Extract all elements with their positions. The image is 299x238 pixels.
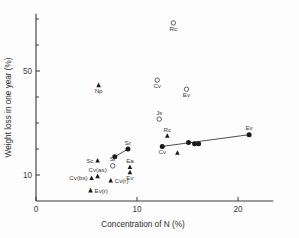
data-point-triangle (128, 164, 133, 169)
y-tick-label: 10 (23, 171, 33, 180)
point-label-Sr: Sr (125, 139, 131, 146)
point-label-Sr: Sr (110, 155, 116, 162)
point-label-Cv(r): Cv(r) (115, 177, 129, 184)
point-label-Cv(as): Cv(as) (89, 166, 107, 173)
point-label-Rc: Rc (164, 126, 172, 133)
data-point-triangle (89, 175, 94, 180)
data-point-open-circle (111, 164, 115, 168)
point-label-Ev(r): Ev(r) (95, 187, 108, 194)
data-point-filled-circle (247, 132, 252, 137)
x-tick-label: 10 (132, 205, 142, 214)
data-markers-group (88, 21, 251, 193)
data-point-triangle (88, 188, 93, 193)
point-label-Js: Js (156, 109, 162, 116)
data-point-triangle (95, 158, 100, 163)
data-point-triangle (108, 178, 113, 183)
axis-text-group: 010201050Concentration of N (%)Weight lo… (4, 57, 243, 229)
point-label-Cv(bs): Cv(bs) (69, 174, 87, 181)
x-tick-label: 20 (233, 205, 243, 214)
point-label-Ev: Ev (245, 124, 253, 131)
fit-lines-group (115, 135, 249, 157)
point-labels-group: RcCvEvJsSrNpRcScEaEvCv(as)Cv(bs)Cv(r)Ev(… (69, 25, 253, 194)
data-point-triangle (165, 133, 170, 138)
scatter-plot-figure: RcCvEvJsSrNpRcScEaEvCv(as)Cv(bs)Cv(r)Ev(… (0, 0, 299, 238)
data-point-triangle (175, 150, 180, 155)
point-label-Np: Np (95, 87, 103, 94)
point-label-Ev: Ev (183, 91, 191, 98)
x-tick-label: 0 (34, 205, 39, 214)
x-axis-title: Concentration of N (%) (101, 220, 185, 229)
data-point-filled-circle (186, 140, 191, 145)
axes-group (36, 14, 273, 201)
plot-canvas: RcCvEvJsSrNpRcScEaEvCv(as)Cv(bs)Cv(r)Ev(… (0, 0, 299, 238)
point-label-Cv: Cv (158, 148, 166, 155)
data-point-open-circle (157, 117, 161, 121)
data-point-filled-circle (196, 141, 201, 146)
point-label-Rc: Rc (170, 25, 178, 32)
y-tick-label: 50 (23, 67, 33, 76)
data-point-triangle (95, 174, 100, 179)
y-axis-title: Weight loss in one year (%) (4, 57, 13, 157)
data-point-filled-circle (125, 147, 130, 152)
point-label-Ea: Ea (126, 157, 134, 164)
point-label-Sc: Sc (86, 157, 93, 164)
fit-line-ev-trend (162, 135, 249, 147)
point-label-Cv: Cv (153, 82, 161, 89)
